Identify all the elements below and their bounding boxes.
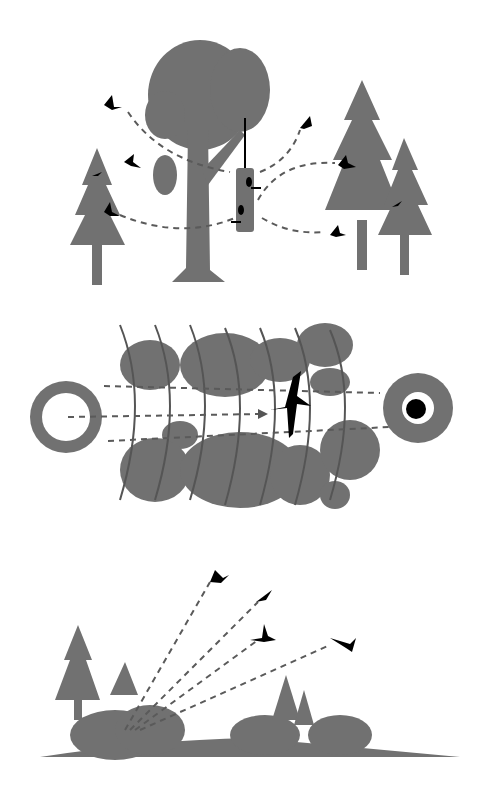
feeder-scene (70, 40, 432, 285)
flight-path (258, 163, 335, 200)
habitat-patch-right (383, 373, 453, 443)
corridor-scene (30, 323, 453, 509)
flight-path (262, 218, 325, 232)
flight-path (260, 130, 300, 172)
diagram (0, 0, 487, 788)
conifers-right (325, 80, 432, 275)
flight-path (120, 215, 235, 228)
corridor-vegetation-top (120, 323, 353, 397)
conifer-left (70, 148, 125, 285)
flush-scene (40, 570, 460, 760)
flushing-birds (210, 570, 356, 652)
deciduous-tree (145, 40, 270, 282)
corridor-vegetation-bottom (120, 420, 380, 509)
